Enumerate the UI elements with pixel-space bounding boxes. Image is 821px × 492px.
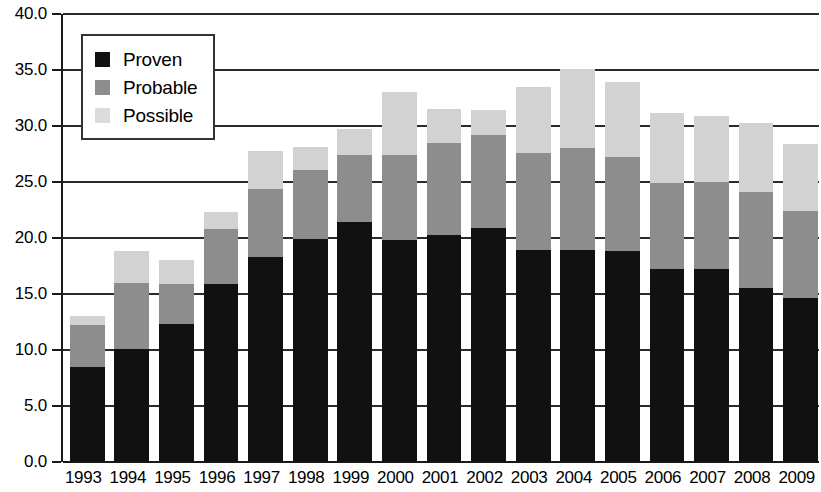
bar-segment-proven <box>204 284 239 462</box>
bar-segment-probable <box>560 148 595 250</box>
bar-segment-proven <box>427 235 462 462</box>
bar-segment-probable <box>694 182 729 269</box>
bar-segment-possible <box>70 316 105 325</box>
bar-segment-possible <box>293 147 328 169</box>
bar-segment-possible <box>382 92 417 155</box>
x-axis-labels: 1993199419951996199719981999200020012002… <box>61 464 819 492</box>
x-axis-label: 1995 <box>150 468 195 488</box>
y-axis-tick <box>52 237 61 239</box>
chart-legend: Proven Probable Possible <box>81 34 215 140</box>
bar-segment-proven <box>650 269 685 462</box>
x-axis-label: 2002 <box>462 468 507 488</box>
bar-segment-probable <box>783 211 818 298</box>
bar-group <box>739 14 774 462</box>
bar-segment-possible <box>337 129 372 155</box>
probable-swatch-icon <box>95 80 110 95</box>
bar-group <box>605 14 640 462</box>
bar-segment-proven <box>739 288 774 462</box>
bar-segment-possible <box>650 113 685 184</box>
bar-group <box>248 14 283 462</box>
x-axis-label: 1997 <box>239 468 284 488</box>
legend-label-proven: Proven <box>123 50 182 69</box>
legend-item-probable: Probable <box>95 73 197 101</box>
x-axis-label: 2009 <box>774 468 819 488</box>
bar-group <box>650 14 685 462</box>
bar-segment-probable <box>293 170 328 239</box>
bar-segment-probable <box>114 283 149 349</box>
bar-segment-proven <box>70 367 105 462</box>
bar-group <box>382 14 417 462</box>
y-axis-tick <box>52 13 61 15</box>
possible-swatch-icon <box>95 108 110 123</box>
y-axis-label: 0.0 <box>24 452 47 472</box>
bar-segment-proven <box>694 269 729 462</box>
x-axis-label: 2001 <box>418 468 463 488</box>
x-axis-label: 1994 <box>106 468 151 488</box>
bar-segment-proven <box>382 240 417 462</box>
x-axis-label: 1999 <box>329 468 374 488</box>
y-axis-tick <box>52 125 61 127</box>
y-axis-tick <box>52 349 61 351</box>
bar-segment-proven <box>783 298 818 462</box>
bar-segment-probable <box>337 155 372 222</box>
bar-segment-probable <box>471 135 506 228</box>
bar-group <box>337 14 372 462</box>
bar-segment-probable <box>382 155 417 240</box>
bar-segment-possible <box>159 260 194 284</box>
stacked-bar-chart: 0.05.010.015.020.025.030.035.040.0 19931… <box>0 0 821 492</box>
bar-segment-possible <box>427 109 462 143</box>
y-axis-label: 15.0 <box>15 284 47 304</box>
proven-swatch-icon <box>95 52 110 67</box>
x-axis-label: 2005 <box>596 468 641 488</box>
bar-group <box>783 14 818 462</box>
y-axis-label: 30.0 <box>15 116 47 136</box>
bar-group <box>560 14 595 462</box>
y-axis-label: 20.0 <box>15 228 47 248</box>
bar-segment-probable <box>605 157 640 251</box>
bar-segment-possible <box>560 69 595 149</box>
x-axis-label: 1993 <box>61 468 106 488</box>
x-axis-label: 1998 <box>284 468 329 488</box>
x-axis-label: 2006 <box>641 468 686 488</box>
bar-segment-probable <box>739 192 774 288</box>
bar-segment-probable <box>650 183 685 269</box>
bar-segment-probable <box>70 325 105 366</box>
bar-group <box>516 14 551 462</box>
bar-segment-proven <box>471 228 506 462</box>
bar-segment-proven <box>114 349 149 462</box>
bar-segment-proven <box>560 250 595 462</box>
bar-segment-possible <box>783 144 818 211</box>
bar-segment-possible <box>739 123 774 192</box>
x-axis-label: 2004 <box>551 468 596 488</box>
y-axis-tick <box>52 69 61 71</box>
bar-segment-probable <box>204 229 239 284</box>
bar-segment-possible <box>605 82 640 157</box>
bar-segment-possible <box>471 110 506 135</box>
y-axis-label: 10.0 <box>15 340 47 360</box>
x-axis-label: 2000 <box>373 468 418 488</box>
bar-segment-proven <box>605 251 640 462</box>
bar-group <box>427 14 462 462</box>
x-axis-label: 2007 <box>685 468 730 488</box>
bar-segment-possible <box>114 251 149 282</box>
bar-segment-proven <box>516 250 551 462</box>
legend-label-possible: Possible <box>123 106 193 125</box>
bar-segment-probable <box>427 143 462 235</box>
y-axis-label: 5.0 <box>24 396 47 416</box>
legend-label-probable: Probable <box>123 78 197 97</box>
y-axis-tick <box>52 181 61 183</box>
y-axis-label: 25.0 <box>15 172 47 192</box>
bar-segment-proven <box>159 324 194 462</box>
bar-segment-probable <box>248 189 283 257</box>
y-axis-label: 35.0 <box>15 60 47 80</box>
legend-item-possible: Possible <box>95 101 197 129</box>
x-axis-label: 2003 <box>507 468 552 488</box>
bar-group <box>471 14 506 462</box>
bar-segment-probable <box>516 153 551 250</box>
bar-group <box>694 14 729 462</box>
y-axis-tick <box>52 461 61 463</box>
bar-segment-possible <box>248 151 283 189</box>
bar-segment-proven <box>293 239 328 462</box>
bar-group <box>293 14 328 462</box>
bar-segment-proven <box>248 257 283 462</box>
